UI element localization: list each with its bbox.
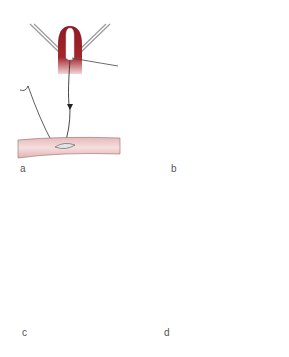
panel-label-a: a xyxy=(20,163,26,174)
panel-label-d: d xyxy=(164,327,170,338)
panel-label-c: c xyxy=(22,327,27,338)
suture-tail xyxy=(20,86,52,142)
panel-a xyxy=(18,24,120,158)
suture-technique-diagram xyxy=(0,0,289,357)
panel-label-b: b xyxy=(171,163,177,174)
